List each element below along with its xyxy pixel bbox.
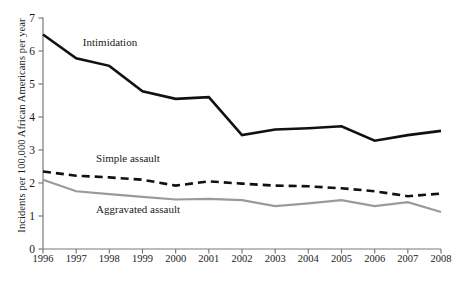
x-axis-tick-label: 2008 (421, 253, 456, 264)
y-axis-tick-label: 7 (17, 12, 35, 24)
series-label-simple-assault: Simple assault (96, 152, 160, 164)
y-axis-tick-label: 2 (17, 177, 35, 189)
series-line-simple-assault (43, 171, 441, 196)
series-label-intimidation: Intimidation (83, 36, 137, 48)
series-label-aggravated-assault: Aggravated assault (96, 203, 180, 215)
y-axis-tick-label: 3 (17, 144, 35, 156)
series-line-intimidation (43, 35, 441, 141)
y-axis-tick-label: 6 (17, 45, 35, 57)
y-axis-tick-label: 4 (17, 111, 35, 123)
y-axis-tick-label: 1 (17, 210, 35, 222)
y-axis-tick-label: 5 (17, 78, 35, 90)
